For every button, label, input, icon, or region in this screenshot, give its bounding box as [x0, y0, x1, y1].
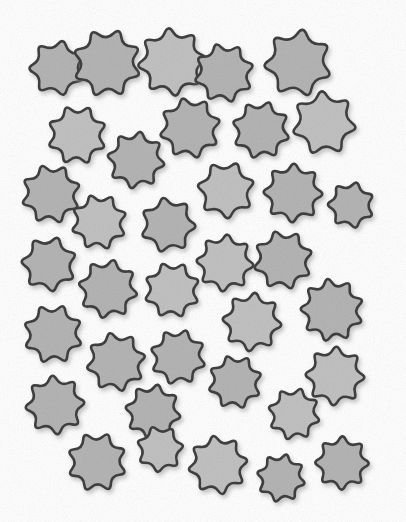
star-shape — [79, 260, 137, 318]
star-shape — [25, 306, 80, 361]
star-shape — [146, 264, 198, 316]
star-shape — [255, 232, 312, 289]
star-shape — [143, 198, 196, 251]
star-shape — [197, 235, 254, 292]
star-stimulus-canvas — [0, 0, 406, 522]
star-shape — [73, 196, 126, 249]
star-shape — [223, 293, 281, 351]
star-shape — [108, 132, 164, 188]
star-shape — [161, 99, 220, 158]
star-shape — [198, 164, 253, 219]
star-shape — [196, 45, 253, 102]
star-field — [0, 0, 406, 522]
star-shape — [269, 389, 319, 439]
star-shape — [294, 91, 356, 152]
stars-group — [22, 28, 372, 501]
star-shape — [152, 331, 205, 384]
star-shape — [189, 436, 247, 494]
star-shape — [69, 434, 124, 489]
star-shape — [265, 30, 330, 95]
star-shape — [30, 41, 83, 95]
star-shape — [209, 356, 260, 407]
star-shape — [49, 107, 104, 162]
star-shape — [301, 279, 362, 341]
star-shape — [234, 103, 289, 158]
star-shape — [328, 183, 372, 228]
star-shape — [306, 347, 365, 406]
star-shape — [22, 238, 75, 291]
star-shape — [138, 28, 205, 95]
star-shape — [315, 436, 368, 489]
star-shape — [26, 376, 84, 434]
star-shape — [258, 455, 305, 502]
star-shape — [23, 166, 79, 222]
star-shape — [264, 164, 323, 223]
star-shape — [87, 333, 144, 390]
star-shape — [75, 31, 139, 95]
